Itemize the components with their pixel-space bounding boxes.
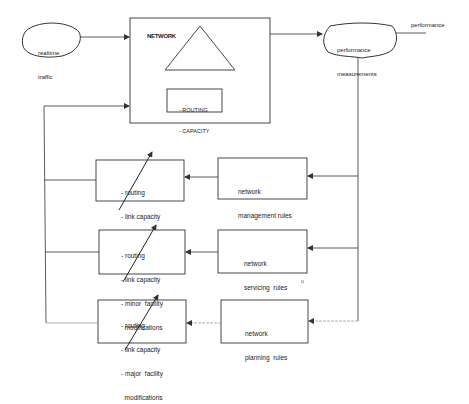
action2-item: - routing (121, 252, 163, 260)
action3-item: modifications (121, 394, 163, 402)
measurements-line2: measurements (337, 70, 377, 78)
action2-item: - link capacity (121, 276, 163, 284)
controls-line2: - CAPACITY (179, 128, 209, 135)
action1-item: - routing (121, 189, 160, 197)
performance-output-label: performance (411, 21, 445, 29)
servicing-rules-label: network servicing rules (244, 244, 287, 300)
action-1-label: - routing - link capacity (121, 173, 160, 229)
management-line1: network (238, 188, 292, 196)
planning-rules-label: network planning rules (245, 314, 287, 370)
network-controls-label: - ROUTING - CAPACITY (179, 93, 209, 142)
measurements-label: performance measurements (337, 30, 377, 86)
servicing-line1: network (244, 260, 287, 268)
management-rules-label: network management rules (238, 172, 292, 228)
network-title: NETWORK (147, 32, 176, 40)
planning-line2: planning rules (245, 354, 287, 362)
action1-item: - link capacity (121, 213, 160, 221)
servicing-line2: servicing rules (244, 284, 287, 292)
stray-mark: u (301, 277, 304, 285)
management-line2: management rules (238, 212, 292, 220)
planning-line1: network (245, 330, 287, 338)
action-3-label: - routing - link capacity - major facili… (121, 306, 163, 404)
controls-line1: - ROUTING (179, 107, 209, 114)
measurements-line1: performance (337, 46, 377, 54)
realtime-label-line1: realtime (38, 49, 59, 57)
realtime-traffic-label: realtime traffic (38, 33, 59, 89)
realtime-label-line2: traffic (38, 73, 59, 81)
action-trunk-line (44, 106, 46, 323)
action3-item: - routing (121, 322, 163, 330)
action3-item: - link capacity (121, 346, 163, 354)
action3-item: - major facility (121, 370, 163, 378)
